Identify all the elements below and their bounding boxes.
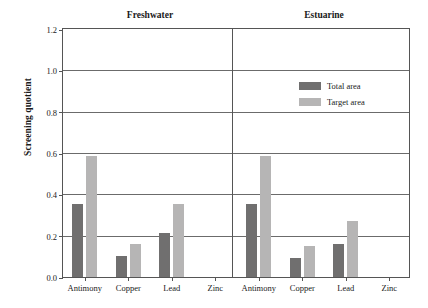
y-axis-tick-label: 1.0	[46, 67, 57, 77]
legend-label-total-area: Total area	[327, 81, 361, 91]
bars	[368, 29, 412, 277]
bar-lead-target-area	[347, 221, 358, 277]
y-axis-tick-label: 0.2	[46, 232, 57, 242]
y-axis-tick-label: 0.6	[46, 149, 57, 159]
bar-group-zinc: Zinc	[368, 29, 412, 277]
x-axis-tick-mark	[85, 277, 86, 281]
bar-copper-target-area	[130, 244, 141, 277]
y-axis-tick-label: 1.2	[46, 25, 57, 35]
x-axis-tick-mark	[172, 277, 173, 281]
bar-lead-total-area	[159, 233, 170, 277]
x-axis-tick-label: Zinc	[381, 283, 397, 293]
bars	[324, 29, 368, 277]
bar-group-antimony: Antimony	[237, 29, 281, 277]
y-axis-tick: 0.8	[46, 103, 63, 121]
bars	[281, 29, 325, 277]
bar-copper-total-area	[116, 256, 127, 277]
y-axis-tick: 1.0	[46, 61, 63, 79]
y-axis-tick-label: 0.8	[46, 108, 57, 118]
bar-antimony-total-area	[72, 204, 83, 277]
bar-copper-total-area	[290, 258, 301, 277]
y-axis-tick: 0.6	[46, 144, 63, 162]
bar-group-lead: Lead	[324, 29, 368, 277]
x-axis-tick-mark	[302, 277, 303, 281]
y-axis-tick-label: 0.4	[46, 191, 57, 201]
chart-figure: Screening quotient 0.00.20.40.60.81.01.2…	[0, 0, 428, 308]
panel-estuarine: EstuarineAntimonyCopperLeadZinc	[237, 29, 411, 277]
x-axis-tick-mark	[128, 277, 129, 281]
x-axis-tick-label: Antimony	[242, 283, 276, 293]
bars	[150, 29, 194, 277]
bar-lead-total-area	[333, 244, 344, 277]
bar-groups: AntimonyCopperLeadZinc	[237, 29, 411, 277]
bar-antimony-total-area	[246, 204, 257, 277]
bar-group-lead: Lead	[150, 29, 194, 277]
legend-label-target-area: Target area	[327, 97, 365, 107]
legend-entry-total-area: Total area	[299, 81, 365, 91]
x-axis-tick-mark	[346, 277, 347, 281]
x-axis-tick-label: Copper	[290, 283, 315, 293]
bar-group-antimony: Antimony	[63, 29, 107, 277]
panel-freshwater: FreshwaterAntimonyCopperLeadZinc	[63, 29, 237, 277]
x-axis-tick-label: Zinc	[207, 283, 223, 293]
x-axis-tick-mark	[259, 277, 260, 281]
bar-antimony-target-area	[86, 156, 97, 277]
panel-divider	[232, 29, 233, 277]
bar-lead-target-area	[173, 204, 184, 277]
x-axis-tick-mark	[215, 277, 216, 281]
bar-copper-target-area	[304, 246, 315, 277]
x-axis-tick-label: Antimony	[68, 283, 102, 293]
chart-legend: Total area Target area	[299, 81, 365, 107]
bar-groups: AntimonyCopperLeadZinc	[63, 29, 237, 277]
bar-antimony-target-area	[260, 156, 271, 277]
y-axis-tick: 0.2	[46, 227, 63, 245]
panel-title: Estuarine	[237, 10, 411, 20]
bar-group-zinc: Zinc	[194, 29, 238, 277]
y-axis-title: Screening quotient	[23, 27, 33, 207]
legend-entry-target-area: Target area	[299, 97, 365, 107]
bar-group-copper: Copper	[107, 29, 151, 277]
x-axis-tick-label: Lead	[337, 283, 354, 293]
bars	[237, 29, 281, 277]
x-axis-tick-label: Lead	[163, 283, 180, 293]
x-axis-tick-label: Copper	[116, 283, 141, 293]
x-axis-tick-mark	[389, 277, 390, 281]
panel-title: Freshwater	[63, 10, 237, 20]
y-axis-tick: 0.4	[46, 185, 63, 203]
y-axis-tick: 1.2	[46, 20, 63, 38]
y-axis-tick-label: 0.0	[46, 273, 57, 283]
bars	[63, 29, 107, 277]
y-axis-tick-mark	[59, 278, 63, 279]
bar-group-copper: Copper	[281, 29, 325, 277]
y-axis-tick: 0.0	[46, 268, 63, 286]
bars	[107, 29, 151, 277]
legend-swatch-total-area	[299, 82, 321, 90]
legend-swatch-target-area	[299, 98, 321, 106]
plot-area: 0.00.20.40.60.81.01.2 FreshwaterAntimony…	[62, 28, 410, 278]
bars	[194, 29, 238, 277]
